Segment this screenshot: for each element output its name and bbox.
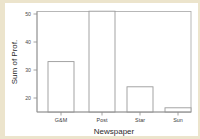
bar-gm bbox=[48, 62, 74, 112]
y-tick-label-30: 30 bbox=[25, 67, 31, 73]
y-tick-label-40: 40 bbox=[25, 39, 31, 45]
y-axis-title: Sum of Prof. bbox=[10, 40, 19, 84]
y-tick-label-20: 20 bbox=[25, 95, 31, 101]
bar-post bbox=[89, 11, 115, 112]
x-axis-title: Newspaper bbox=[94, 127, 135, 136]
y-tick-label-50: 50 bbox=[25, 11, 31, 17]
bar-star bbox=[127, 87, 153, 112]
bar-chart: 50 40 30 20 Sum of Prof. G&M Post Star S… bbox=[0, 0, 200, 139]
x-tick-label-post: Post bbox=[97, 117, 108, 123]
chart-figure: 50 40 30 20 Sum of Prof. G&M Post Star S… bbox=[0, 0, 200, 139]
x-tick-label-sun: Sun bbox=[173, 117, 183, 123]
x-tick-label-star: Star bbox=[135, 117, 145, 123]
x-tick-label-gm: G&M bbox=[55, 117, 68, 123]
bar-sun bbox=[165, 108, 191, 112]
